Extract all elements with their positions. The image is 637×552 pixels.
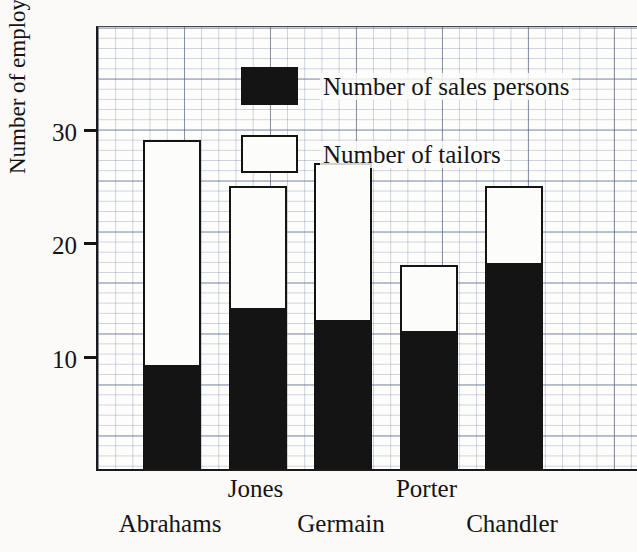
legend-item-tailors: Number of tailors xyxy=(241,135,504,173)
legend-item-sales-persons: Number of sales persons xyxy=(241,67,572,105)
x-label-jones: Jones xyxy=(228,476,284,501)
legend-swatch-filled-icon xyxy=(241,67,298,105)
bar-segment-tailors[interactable] xyxy=(314,163,372,322)
plot-area: 30 20 10 xyxy=(96,26,637,471)
legend-label-sales-persons: Number of sales persons xyxy=(320,73,572,100)
y-tick-label-10: 10 xyxy=(52,346,77,371)
y-tick-10: 10 xyxy=(84,356,98,359)
legend-swatch-hollow-icon xyxy=(241,135,298,173)
bar-segment-tailors[interactable] xyxy=(485,186,543,265)
bar-segment-sales-persons[interactable] xyxy=(229,310,287,469)
y-tick-30: 30 xyxy=(84,129,98,132)
bar-segment-sales-persons[interactable] xyxy=(485,265,543,469)
bar-segment-sales-persons[interactable] xyxy=(143,367,201,469)
bar-chandler[interactable] xyxy=(485,186,543,469)
legend-label-tailors: Number of tailors xyxy=(320,141,504,168)
bar-porter[interactable] xyxy=(400,265,458,469)
bar-segment-tailors[interactable] xyxy=(400,265,458,333)
bar-abrahams[interactable] xyxy=(143,140,201,469)
bar-germain[interactable] xyxy=(314,163,372,469)
y-tick-label-20: 20 xyxy=(52,233,77,258)
bar-segment-sales-persons[interactable] xyxy=(400,333,458,469)
x-label-abrahams: Abrahams xyxy=(119,511,222,536)
x-label-chandler: Chandler xyxy=(466,511,558,536)
chart-page: Number of employees 30 20 10 xyxy=(0,0,637,552)
bar-jones[interactable] xyxy=(229,186,287,469)
x-label-germain: Germain xyxy=(297,511,384,536)
bar-segment-tailors[interactable] xyxy=(229,186,287,311)
y-tick-label-30: 30 xyxy=(52,120,77,145)
bar-segment-tailors[interactable] xyxy=(143,140,201,367)
y-tick-20: 20 xyxy=(84,242,98,245)
bar-segment-sales-persons[interactable] xyxy=(314,322,372,469)
x-label-porter: Porter xyxy=(396,476,457,501)
y-axis-title: Number of employees xyxy=(6,150,29,174)
